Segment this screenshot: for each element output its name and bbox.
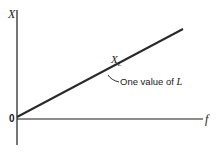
line-label-main: X <box>111 53 118 65</box>
diagram-canvas <box>0 0 218 152</box>
x-axis-label: f <box>205 113 208 125</box>
annotation-leader <box>108 75 119 82</box>
line-label-sub: L <box>118 60 122 68</box>
y-axis-label: X <box>8 8 15 20</box>
annotation-var: L <box>177 76 183 87</box>
annotation-text: One value of L <box>120 77 182 88</box>
line-label: XL <box>111 54 122 68</box>
xl-line <box>17 29 183 117</box>
annotation-prefix: One value of <box>120 76 177 87</box>
origin-label: 0 <box>9 114 15 124</box>
